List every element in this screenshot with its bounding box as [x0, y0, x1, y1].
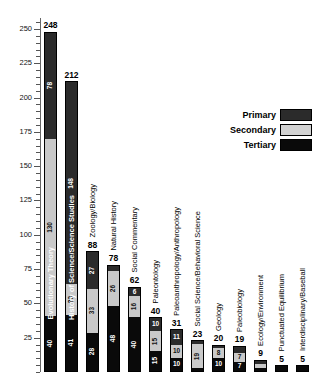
stacked-bar[interactable]: [254, 360, 267, 372]
bar-segment-primary[interactable]: 10: [150, 318, 161, 331]
bar-segment-tertiary[interactable]: 10: [213, 358, 224, 371]
bar-category-label: Interdisciplinary/Baseball: [299, 268, 307, 351]
chart-legend: Primary Secondary Tertiary: [196, 108, 312, 153]
bar-segment-tertiary[interactable]: [192, 368, 203, 371]
bar-segment-value: 27: [89, 267, 96, 274]
bar-total-label: 62: [130, 276, 139, 285]
bar-segment-secondary[interactable]: 15: [150, 331, 161, 351]
bar-segment-tertiary[interactable]: 7: [234, 362, 245, 371]
bar-total-label: 9: [258, 349, 263, 358]
bar-category-label: Social Science/Behavioral Science: [194, 211, 202, 326]
bar-segment-value: 10: [173, 348, 180, 355]
y-axis-tick-label: 50: [24, 300, 32, 308]
bar-group[interactable]: 1482341212History of Science/Science Stu…: [65, 18, 78, 372]
stacked-bar[interactable]: 273328: [86, 251, 99, 372]
y-axis-tick-label: 100: [19, 231, 32, 239]
legend-swatch-secondary: [280, 124, 312, 136]
bar-total-label: 248: [43, 21, 57, 30]
bar-segment-tertiary[interactable]: 10: [171, 358, 182, 371]
bar-category-label: Evolutionary Theory: [47, 247, 55, 320]
bar-total-label: 23: [193, 330, 202, 339]
bar-segment-secondary[interactable]: 26: [108, 271, 119, 306]
bar-group[interactable]: 264878Natural History: [107, 18, 120, 372]
bar-segment-tertiary[interactable]: [255, 368, 266, 371]
y-axis-tick-label: 250: [19, 25, 32, 33]
bar-category-label: Punctuated Equilibrium: [278, 274, 286, 351]
stacked-bar[interactable]: [296, 365, 309, 372]
bar-segment-tertiary[interactable]: 41: [66, 315, 77, 371]
bar-segment-value: 148: [68, 178, 75, 189]
bar-group[interactable]: 9Ecology/Environment: [254, 18, 267, 372]
bar-total-label: 212: [64, 71, 78, 80]
bar-segment-tertiary[interactable]: 48: [108, 306, 119, 371]
bar-segment-value: 7: [238, 354, 242, 361]
stacked-bar[interactable]: 19: [191, 340, 204, 372]
stacked-bar[interactable]: 111010: [170, 329, 183, 372]
stacked-bar[interactable]: 7813040: [44, 32, 57, 372]
bar-segment-primary[interactable]: 78: [45, 33, 56, 139]
bar-group[interactable]: 7719Paleobiology: [233, 18, 246, 372]
y-axis-tick-label: 125: [19, 197, 32, 205]
bar-segment-tertiary[interactable]: [297, 366, 308, 371]
bar-segment-value: 10: [215, 361, 222, 368]
bar-total-label: 5: [300, 355, 305, 364]
bar-category-label: Paleobiology: [236, 289, 244, 332]
bar-category-label: Zoology/Biology: [89, 184, 97, 237]
bar-segment-value: 10: [173, 361, 180, 368]
bar-total-label: 88: [88, 241, 97, 250]
bar-segment-primary[interactable]: 6: [129, 288, 140, 296]
bar-total-label: 31: [172, 319, 181, 328]
bar-segment-tertiary[interactable]: 28: [87, 333, 98, 371]
bar-segment-value: 26: [110, 285, 117, 292]
bar-segment-secondary[interactable]: 19: [192, 344, 203, 368]
bar-total-label: 19: [235, 335, 244, 344]
bar-segment-primary[interactable]: 27: [87, 252, 98, 288]
bar-group[interactable]: 6164062Social Commentary: [128, 18, 141, 372]
bar-group[interactable]: 5Punctuated Equilibrium: [275, 18, 288, 372]
bar-group[interactable]: 10151540Paleontology: [149, 18, 162, 372]
stacked-bar[interactable]: 77: [233, 346, 246, 372]
bar-segment-value: 33: [89, 307, 96, 314]
bar-total-label: 5: [279, 355, 284, 364]
bar-segment-tertiary[interactable]: 15: [150, 351, 161, 371]
stacked-bar[interactable]: 810: [212, 345, 225, 372]
stacked-bar[interactable]: 2648: [107, 265, 120, 372]
y-axis-minor-tick: [36, 372, 40, 373]
bar-segment-tertiary[interactable]: 40: [129, 317, 140, 371]
legend-item-secondary: Secondary: [196, 123, 312, 137]
bar-segment-primary[interactable]: 11: [171, 330, 182, 344]
legend-item-tertiary: Tertiary: [196, 138, 312, 152]
bar-segment-tertiary[interactable]: 40: [45, 316, 56, 371]
bar-segment-secondary[interactable]: 16: [129, 296, 140, 317]
bar-total-label: 20: [214, 334, 223, 343]
bar-group[interactable]: 27332888Zoology/Biology: [86, 18, 99, 372]
bar-category-label: Ecology/Environment: [257, 275, 265, 346]
bar-group[interactable]: 11101031Paleoanthropology/Anthropology: [170, 18, 183, 372]
bar-segment-value: 16: [131, 303, 138, 310]
legend-label-tertiary: Tertiary: [244, 141, 276, 150]
bar-segment-secondary[interactable]: 10: [171, 345, 182, 358]
y-axis-tick-label: 25: [24, 334, 32, 342]
bar-segment-value: 28: [89, 348, 96, 355]
bar-category-label: Geology: [215, 303, 223, 331]
y-axis-tick-label: 175: [19, 128, 32, 136]
bar-total-label: 40: [151, 307, 160, 316]
bar-group[interactable]: 81020Geology: [212, 18, 225, 372]
bar-group[interactable]: 7813040248Evolutionary Theory: [44, 18, 57, 372]
bar-segment-value: 7: [238, 363, 242, 370]
bar-segment-secondary[interactable]: 7: [234, 353, 245, 362]
bar-segment-tertiary[interactable]: [276, 366, 287, 371]
bar-segment-value: 40: [131, 341, 138, 348]
stacked-bar[interactable]: 101515: [149, 317, 162, 372]
bar-segment-secondary[interactable]: 33: [87, 289, 98, 334]
stacked-bar[interactable]: 61640: [128, 287, 141, 372]
bar-segment-secondary[interactable]: 8: [213, 348, 224, 358]
bar-segment-value: 15: [152, 357, 159, 364]
stacked-bar[interactable]: [275, 365, 288, 372]
bar-segment-value: 6: [133, 289, 137, 296]
y-axis: 255075100125150175200225250: [0, 0, 40, 377]
bar-group[interactable]: 5Interdisciplinary/Baseball: [296, 18, 309, 372]
bar-category-label: Social Commentary: [131, 207, 139, 272]
bar-segment-value: 48: [110, 335, 117, 342]
bar-group[interactable]: 1923Social Science/Behavioral Science: [191, 18, 204, 372]
